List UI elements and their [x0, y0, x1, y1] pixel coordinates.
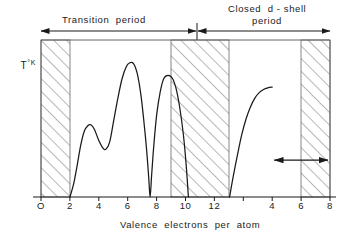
- closed-dshell-curve: [230, 87, 273, 197]
- x-axis-tick-label: 8: [154, 200, 160, 211]
- x-axis-tick-label: 4: [269, 200, 275, 211]
- x-axis-tick-label: 12: [209, 200, 221, 211]
- x-axis-tick-label: 10: [180, 200, 192, 211]
- x-axis-tick-label: 6: [125, 200, 131, 211]
- period-span-bar: [41, 23, 330, 40]
- hatched-band-left: [41, 40, 70, 197]
- closed-dshell-label-line2: period: [252, 15, 282, 26]
- x-axis-tick-label: 8: [327, 200, 333, 211]
- chart-figure: [0, 0, 349, 240]
- x-axis-tick-label: 4: [96, 200, 102, 211]
- x-axis-tick-label: 6: [298, 200, 304, 211]
- closed-dshell-label-line1: Closed d - shell: [228, 3, 306, 14]
- y-axis-label: T°K: [14, 48, 36, 71]
- x-axis-tick-label: 2: [67, 200, 73, 211]
- hatched-bands: [41, 40, 330, 197]
- x-axis-caption: Valence electrons per atom: [120, 219, 260, 230]
- x-axis-tick-label: O: [37, 200, 45, 211]
- y-axis-label-unit: °K: [27, 59, 36, 66]
- hatched-band-right: [301, 40, 330, 197]
- hatched-band-middle: [171, 40, 229, 197]
- transition-period-label: Transition period: [62, 14, 146, 25]
